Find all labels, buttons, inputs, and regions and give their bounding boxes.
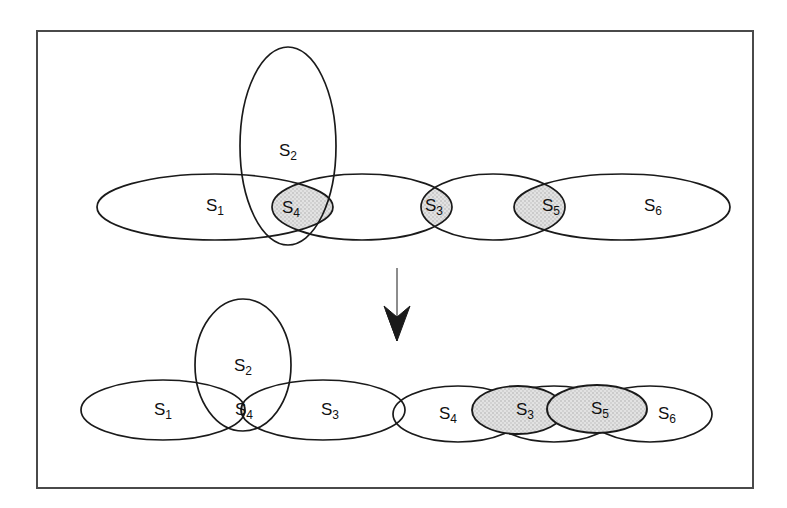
label-s4-bottom-left: S4 xyxy=(235,400,253,422)
down-arrow-icon xyxy=(384,268,410,341)
label-s3-bottom-left: S3 xyxy=(321,400,339,422)
bottom-right-diagram: S4 S3 S5 S6 xyxy=(393,385,712,442)
set-decomposition-figure: S1 S2 S4 S3 S5 S6 xyxy=(0,0,787,508)
label-s4-bottom-right: S4 xyxy=(439,404,457,426)
label-s2-top: S2 xyxy=(279,141,297,163)
label-s2-bottom-left: S2 xyxy=(234,356,252,378)
label-s6-bottom-right: S6 xyxy=(658,404,676,426)
top-diagram: S1 S2 S4 S3 S5 S6 xyxy=(97,47,730,245)
figure-root: S1 S2 S4 S3 S5 S6 xyxy=(0,0,787,508)
label-s1-bottom-left: S1 xyxy=(154,400,172,422)
label-s6-top: S6 xyxy=(644,196,662,218)
bottom-left-diagram: S1 S2 S4 S3 xyxy=(81,299,405,440)
label-s1-top: S1 xyxy=(206,196,224,218)
